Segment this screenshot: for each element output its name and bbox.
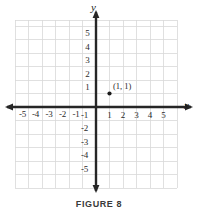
- y-tick-label-5: 5: [83, 29, 92, 38]
- x-tick-label-4: 4: [146, 111, 155, 120]
- figure-8-coordinate-plane: -5 -4 -3 -2 -1 1 2 3 4 5 5 4 3 2 1 -1 -2…: [0, 0, 198, 215]
- y-tick-label--1: -1: [79, 111, 90, 120]
- y-tick-label--2: -2: [79, 124, 90, 133]
- x-tick-label-3: 3: [132, 111, 141, 120]
- y-tick-label-2: 2: [83, 70, 92, 79]
- x-tick-label--2: -2: [57, 110, 68, 119]
- x-tick-label--4: -4: [30, 110, 41, 119]
- figure-caption: FIGURE 8: [0, 199, 198, 209]
- x-tick-label-1: 1: [105, 111, 114, 120]
- y-axis: [93, 10, 100, 193]
- point-label-1-1: (1, 1): [113, 82, 131, 91]
- plot-area: -5 -4 -3 -2 -1 1 2 3 4 5 5 4 3 2 1 -1 -2…: [0, 0, 198, 196]
- x-tick-label--5: -5: [17, 110, 28, 119]
- y-axis-name: y: [91, 2, 96, 13]
- y-tick-label-4: 4: [83, 43, 92, 52]
- x-axis-name: x: [184, 100, 189, 111]
- x-tick-label-5: 5: [159, 111, 168, 120]
- y-tick-label--4: -4: [79, 151, 90, 160]
- y-tick-label--5: -5: [79, 165, 90, 174]
- y-tick-label-1: 1: [83, 83, 92, 92]
- coordinate-grid-svg: [0, 0, 198, 196]
- plotted-point-1-1: [107, 91, 111, 95]
- x-tick-label-2: 2: [119, 111, 128, 120]
- y-tick-label-3: 3: [83, 56, 92, 65]
- x-tick-label--3: -3: [44, 110, 55, 119]
- y-tick-label--3: -3: [79, 138, 90, 147]
